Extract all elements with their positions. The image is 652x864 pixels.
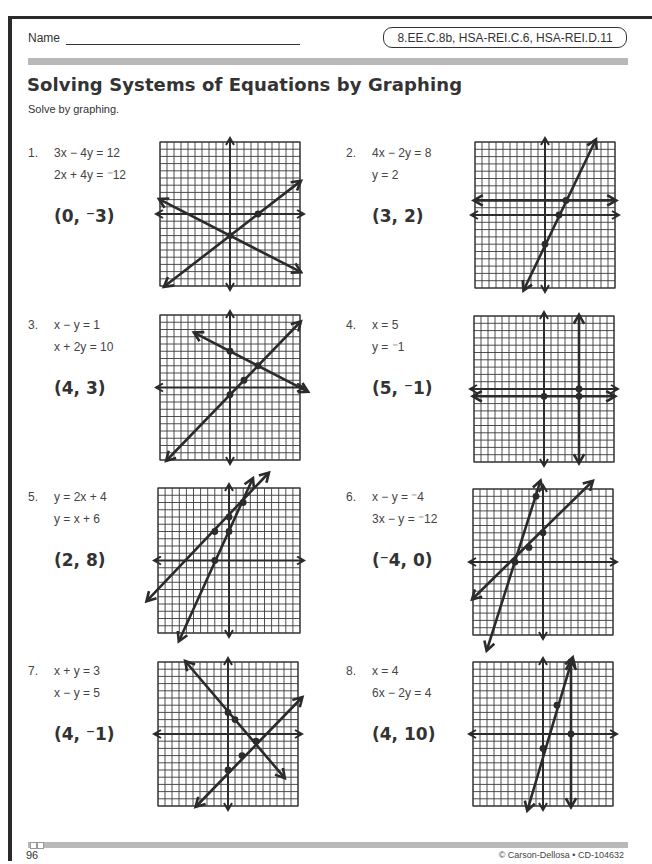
plotted-point — [540, 529, 547, 536]
problem-number: 2. — [346, 146, 356, 160]
plotted-point — [533, 493, 540, 500]
header-divider-band — [28, 58, 628, 65]
equation-2: y = x + 6 — [54, 512, 100, 526]
answer: (⁻4, 0) — [372, 550, 433, 570]
coordinate-grid-7 — [144, 648, 312, 820]
answer: (4, 3) — [54, 378, 106, 398]
page-title: Solving Systems of Equations by Graphing — [27, 74, 462, 95]
plotted-point — [225, 767, 232, 774]
plotted-point — [542, 241, 549, 248]
answer: (3, 2) — [372, 206, 424, 226]
equation-1: x = 4 — [372, 664, 398, 678]
equation-1: x = 5 — [372, 318, 398, 332]
answer: (2, 8) — [54, 550, 106, 570]
coordinate-grid-2 — [461, 128, 629, 302]
coordinate-grid-4 — [460, 302, 628, 476]
standards-badge: 8.EE.C.8b, HSA-REI.C.6, HSA-REI.D.11 — [383, 27, 627, 48]
equation-2: y = 2 — [372, 168, 398, 182]
plotted-point — [240, 499, 247, 506]
plotted-point — [255, 211, 262, 218]
plotted-point — [239, 752, 246, 759]
plotted-point — [576, 393, 583, 400]
equation-1: 4x − 2y = 8 — [372, 146, 431, 160]
problem-number: 3. — [28, 318, 38, 332]
equation-2: x − y = 5 — [54, 686, 100, 700]
problem-number: 4. — [346, 318, 356, 332]
problem-number: 8. — [346, 664, 356, 678]
plotted-point — [227, 391, 234, 398]
equation-1: x − y = 1 — [54, 318, 100, 332]
problem-number: 1. — [28, 146, 38, 160]
answer: (0, ⁻3) — [54, 206, 115, 226]
coordinate-grid-6 — [459, 475, 627, 649]
footer-square — [30, 842, 37, 849]
plotted-point — [563, 197, 570, 204]
plotted-point — [568, 659, 575, 666]
plotted-point — [225, 709, 232, 716]
plotted-point — [226, 514, 233, 521]
plotted-point — [554, 702, 561, 709]
plotted-point — [232, 716, 239, 723]
name-label: Name — [28, 31, 60, 45]
plotted-point — [255, 362, 262, 369]
coordinate-grid-8 — [459, 648, 627, 820]
equation-2: y = ⁻1 — [372, 340, 404, 354]
plotted-point — [541, 393, 548, 400]
coordinate-grid-5 — [144, 474, 314, 647]
name-input-line[interactable] — [66, 44, 300, 45]
problem-number: 7. — [28, 664, 38, 678]
equation-1: x + y = 3 — [54, 664, 100, 678]
answer: (4, ⁻1) — [54, 724, 115, 744]
plotted-point — [211, 528, 218, 535]
plotted-point — [568, 731, 575, 738]
equation-2: 6x − 2y = 4 — [372, 686, 431, 700]
equation-1: 3x − 4y = 12 — [54, 146, 120, 160]
equation-1: y = 2x + 4 — [54, 490, 107, 504]
footer-square — [37, 842, 44, 849]
answer: (5, ⁻1) — [372, 378, 433, 398]
equation-2: 3x − y = ⁻12 — [372, 512, 437, 526]
plotted-point — [241, 377, 248, 384]
footer-divider-band — [28, 842, 628, 848]
answer: (4, 10) — [372, 724, 435, 744]
plotted-point — [556, 212, 563, 219]
problem-number: 5. — [28, 490, 38, 504]
equation-2: x + 2y = 10 — [54, 340, 113, 354]
coordinate-grid-1 — [146, 128, 314, 300]
problem-number: 6. — [346, 490, 356, 504]
plotted-point — [211, 557, 218, 564]
copyright: © Carson-Dellosa • CD-104632 — [499, 850, 624, 860]
equation-1: x − y = ⁻4 — [372, 490, 424, 504]
equation-2: 2x + 4y = ⁻12 — [54, 168, 126, 182]
plotted-point — [526, 544, 533, 551]
plotted-point — [576, 386, 583, 393]
page-number: 96 — [26, 849, 38, 861]
plotted-point — [227, 348, 234, 355]
plotted-point — [540, 745, 547, 752]
coordinate-grid-3 — [146, 301, 314, 474]
plotted-point — [226, 528, 233, 535]
plotted-point — [512, 559, 519, 566]
plotted-point — [227, 232, 234, 239]
instructions: Solve by graphing. — [28, 103, 119, 115]
plotted-point — [253, 738, 260, 745]
